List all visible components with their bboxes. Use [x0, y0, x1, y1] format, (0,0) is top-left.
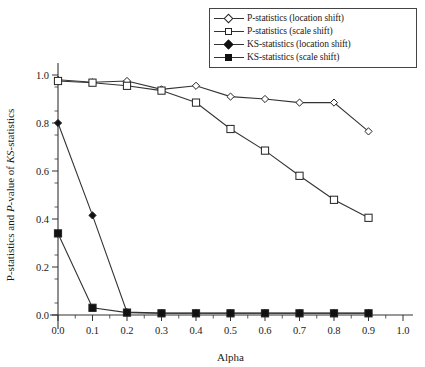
- y-tick-label: 0.0: [36, 310, 49, 321]
- data-point-marker: [330, 310, 337, 317]
- data-series-group: [54, 76, 372, 317]
- data-point-marker: [261, 95, 268, 102]
- chart-root: P-statistics (location shift) P-statisti…: [0, 0, 425, 367]
- x-tick-label: 0.3: [155, 325, 168, 336]
- series-1: [54, 77, 372, 221]
- data-point-marker: [296, 172, 303, 179]
- data-point-marker: [192, 99, 199, 106]
- y-tick-label: 1.0: [36, 70, 49, 81]
- x-tick-label: 0.8: [327, 325, 340, 336]
- x-axis-title: Alpha: [217, 351, 244, 363]
- data-point-marker: [261, 310, 268, 317]
- series-0: [54, 76, 372, 135]
- chart-svg: 0.00.10.20.30.40.50.60.70.80.91.0 0.00.2…: [0, 0, 425, 367]
- x-tick-label: 0.1: [86, 325, 99, 336]
- data-point-marker: [89, 79, 96, 86]
- data-point-marker: [330, 196, 337, 203]
- series-line: [58, 81, 369, 218]
- x-tick-label: 1.0: [396, 325, 409, 336]
- x-axis-ticks: 0.00.10.20.30.40.50.60.70.80.91.0: [51, 315, 409, 336]
- data-point-marker: [54, 77, 61, 84]
- series-2: [54, 119, 372, 316]
- series-line: [58, 80, 369, 132]
- x-tick-label: 0.2: [120, 325, 133, 336]
- data-point-marker: [261, 147, 268, 154]
- x-tick-label: 0.5: [224, 325, 237, 336]
- x-tick-label: 0.0: [51, 325, 64, 336]
- data-point-marker: [123, 82, 130, 89]
- x-tick-label: 0.6: [258, 325, 271, 336]
- data-point-marker: [89, 304, 96, 311]
- x-tick-label: 0.9: [362, 325, 375, 336]
- data-point-marker: [296, 310, 303, 317]
- y-tick-label: 0.2: [36, 262, 49, 273]
- series-line: [58, 233, 369, 313]
- data-point-marker: [296, 99, 303, 106]
- y-tick-label: 0.6: [36, 166, 49, 177]
- data-point-marker: [227, 310, 234, 317]
- axes: [50, 63, 413, 329]
- plot-area: 0.00.10.20.30.40.50.60.70.80.91.0 0.00.2…: [0, 0, 425, 367]
- data-point-marker: [123, 309, 130, 316]
- data-point-marker: [54, 119, 61, 126]
- x-tick-label: 0.4: [189, 325, 203, 336]
- data-point-marker: [192, 82, 199, 89]
- data-point-marker: [192, 310, 199, 317]
- data-point-marker: [54, 230, 61, 237]
- data-point-marker: [227, 93, 234, 100]
- data-point-marker: [89, 212, 96, 219]
- data-point-marker: [158, 87, 165, 94]
- y-tick-label: 0.8: [36, 118, 49, 129]
- y-axis-ticks: 0.00.20.40.60.81.0: [36, 70, 58, 321]
- y-tick-label: 0.4: [36, 214, 50, 225]
- series-line: [58, 123, 369, 313]
- data-point-marker: [227, 125, 234, 132]
- data-point-marker: [158, 310, 165, 317]
- y-axis-title: P-statistics and P-value of KS-statistic…: [4, 109, 16, 281]
- x-tick-label: 0.7: [293, 325, 306, 336]
- data-point-marker: [365, 214, 372, 221]
- data-point-marker: [365, 310, 372, 317]
